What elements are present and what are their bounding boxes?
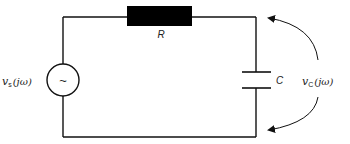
capacitor-voltage-label: vC(jω) — [302, 75, 333, 88]
source-voltage-label: vs(jω) — [2, 75, 32, 88]
ac-voltage-source: ~ — [47, 64, 79, 96]
ac-source-tilde-icon: ~ — [59, 73, 67, 88]
lower-arrow-icon — [269, 97, 318, 130]
resistor-label: R — [157, 29, 164, 40]
capacitor-symbol — [242, 72, 271, 88]
upper-arrow-icon — [269, 18, 318, 60]
capacitor-label: C — [276, 75, 284, 86]
rc-circuit-diagram: ~ R C vs(jω) vC(jω) — [0, 0, 350, 144]
resistor-symbol — [127, 6, 192, 26]
